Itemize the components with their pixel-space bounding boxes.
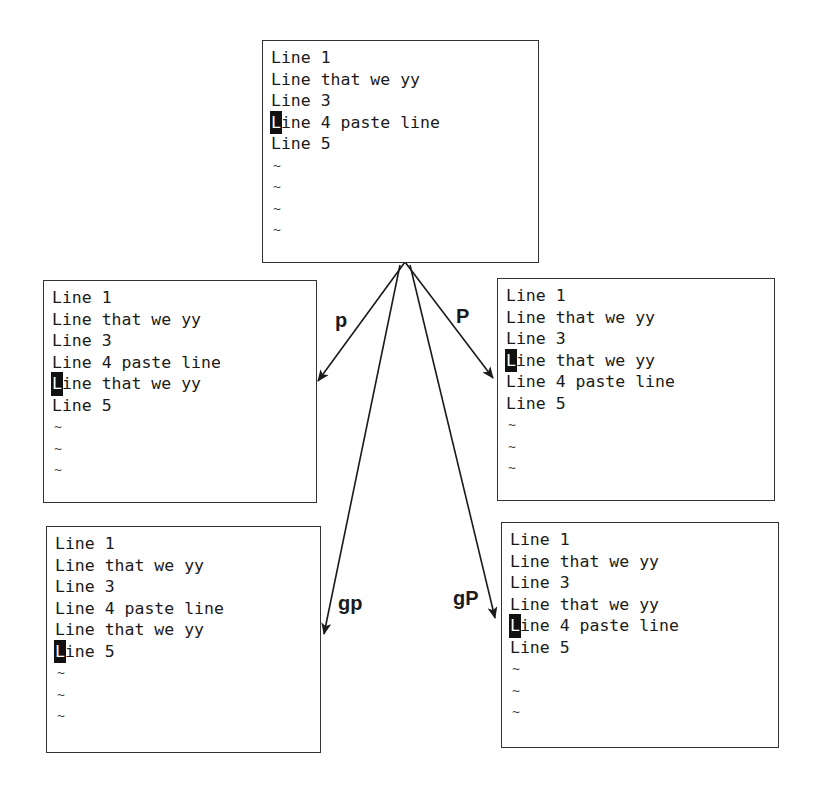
empty-line-tilde: ~ bbox=[506, 436, 766, 458]
empty-line-tilde: ~ bbox=[52, 459, 308, 481]
empty-line-tilde: ~ bbox=[510, 680, 770, 702]
empty-line-tilde: ~ bbox=[510, 701, 770, 723]
label-P: P bbox=[456, 305, 469, 328]
cursor-block: L bbox=[55, 641, 65, 663]
buffer-line: Line 1 bbox=[52, 287, 308, 309]
empty-line-tilde: ~ bbox=[510, 658, 770, 680]
buffer-line: Line that we yy bbox=[52, 309, 308, 331]
arrow-gP bbox=[410, 265, 495, 618]
empty-line-tilde: ~ bbox=[52, 438, 308, 460]
empty-line-tilde: ~ bbox=[271, 219, 530, 241]
buffer-line: Line that we yy bbox=[55, 555, 312, 577]
buffer-line: Line 5 bbox=[52, 395, 308, 417]
empty-line-tilde: ~ bbox=[271, 176, 530, 198]
buffer-line: Line that we yy bbox=[506, 307, 766, 329]
buffer-line: Line 4 paste line bbox=[52, 352, 308, 374]
arrow-P bbox=[405, 262, 493, 378]
result-buffer-P: Line 1Line that we yyLine 3Line that we … bbox=[497, 278, 775, 501]
buffer-line: Line that we yy bbox=[510, 594, 770, 616]
buffer-line: Line that we yy bbox=[52, 373, 308, 395]
buffer-line: Line 5 bbox=[271, 133, 530, 155]
buffer-line-text: ine 4 paste line bbox=[281, 113, 440, 132]
empty-line-tilde: ~ bbox=[55, 684, 312, 706]
buffer-line: Line that we yy bbox=[510, 551, 770, 573]
buffer-line: Line 5 bbox=[55, 641, 312, 663]
buffer-line: Line 4 paste line bbox=[510, 615, 770, 637]
cursor-block: L bbox=[52, 373, 62, 395]
buffer-line: Line 4 paste line bbox=[55, 598, 312, 620]
buffer-line: Line 1 bbox=[506, 285, 766, 307]
source-buffer: Line 1Line that we yyLine 3Line 4 paste … bbox=[262, 40, 539, 263]
result-buffer-p: Line 1Line that we yyLine 3Line 4 paste … bbox=[43, 280, 317, 503]
buffer-line: Line 1 bbox=[271, 47, 530, 69]
buffer-line-text: ine that we yy bbox=[62, 374, 201, 393]
buffer-line: Line that we yy bbox=[55, 619, 312, 641]
empty-line-tilde: ~ bbox=[271, 198, 530, 220]
label-gp: gp bbox=[338, 592, 362, 615]
buffer-line-text: ine that we yy bbox=[516, 351, 655, 370]
result-buffer-gP: Line 1Line that we yyLine 3Line that we … bbox=[501, 522, 779, 748]
empty-line-tilde: ~ bbox=[506, 457, 766, 479]
empty-line-tilde: ~ bbox=[271, 155, 530, 177]
buffer-line: Line 1 bbox=[510, 529, 770, 551]
empty-line-tilde: ~ bbox=[506, 414, 766, 436]
buffer-line: Line 4 paste line bbox=[271, 112, 530, 134]
buffer-line: Line 3 bbox=[271, 90, 530, 112]
cursor-block: L bbox=[510, 615, 520, 637]
cursor-block: L bbox=[506, 350, 516, 372]
empty-line-tilde: ~ bbox=[55, 705, 312, 727]
buffer-line: Line 5 bbox=[506, 393, 766, 415]
label-gP: gP bbox=[453, 587, 479, 610]
result-buffer-gp: Line 1Line that we yyLine 3Line 4 paste … bbox=[46, 526, 321, 753]
buffer-line: Line 3 bbox=[510, 572, 770, 594]
arrow-p bbox=[318, 262, 405, 381]
cursor-block: L bbox=[271, 112, 281, 134]
buffer-line-text: ine 4 paste line bbox=[520, 616, 679, 635]
buffer-line: Line 1 bbox=[55, 533, 312, 555]
buffer-line: Line 3 bbox=[506, 328, 766, 350]
empty-line-tilde: ~ bbox=[55, 662, 312, 684]
buffer-line: Line 5 bbox=[510, 637, 770, 659]
buffer-line: Line 3 bbox=[52, 330, 308, 352]
buffer-line: Line that we yy bbox=[271, 69, 530, 91]
buffer-line: Line 3 bbox=[55, 576, 312, 598]
empty-line-tilde: ~ bbox=[52, 416, 308, 438]
buffer-line: Line that we yy bbox=[506, 350, 766, 372]
buffer-line: Line 4 paste line bbox=[506, 371, 766, 393]
label-p: p bbox=[335, 309, 347, 332]
buffer-line-text: ine 5 bbox=[65, 642, 115, 661]
